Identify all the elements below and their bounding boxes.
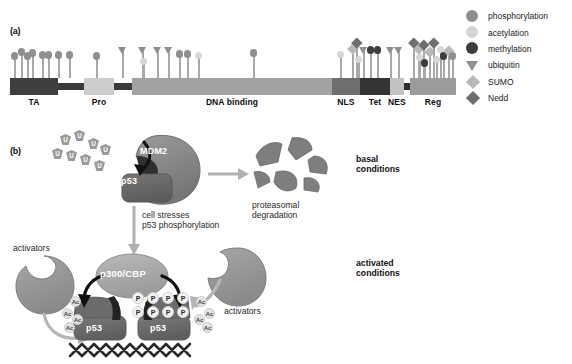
domain-label-tet: Tet — [360, 97, 390, 107]
proteasomal-fragments-graphic — [252, 136, 332, 198]
legend-row-methylation: methylation — [466, 41, 572, 57]
cell-stress-line1: cell stresses — [142, 210, 189, 221]
ubiquitin-icon — [386, 47, 394, 54]
panel-b-label: (b) — [10, 146, 21, 156]
domain-segment-pro — [84, 78, 114, 95]
sumo-icon — [466, 75, 479, 88]
methylation-icon — [374, 46, 382, 54]
legend-row-phosphorylation: phosphorylation — [466, 8, 572, 24]
domain-segment-nes — [390, 78, 404, 95]
legend-label: Nedd — [488, 93, 508, 103]
phosphorylation-icon — [66, 51, 74, 59]
phosphorylation-badge: P — [162, 306, 174, 318]
domain-segment-nls — [332, 78, 360, 95]
ubiquitin-icon — [118, 47, 126, 54]
domain-label-nes: NES — [388, 97, 406, 107]
ubiquitin-icon: U — [52, 148, 63, 159]
panel-b: (b) MDM2 p53 UUUUUUUU — [0, 118, 572, 364]
degradation-caption-line1: proteasomal — [252, 200, 338, 211]
ubiquitin-icon: U — [100, 144, 111, 155]
methylation-icon — [466, 42, 479, 55]
acetylation-badge: Ac — [196, 296, 207, 307]
activators-label-left: activators — [13, 243, 50, 254]
acetylation-badge: Ac — [64, 322, 75, 333]
degradation-caption-line2: degradation — [252, 210, 338, 221]
phosphorylation-badge: P — [177, 292, 189, 304]
phosphorylation-icon — [449, 52, 457, 60]
legend-row-acetylation: acetylation — [466, 24, 572, 40]
ubiquitin-icon — [466, 59, 479, 72]
ubiquitin-icon: U — [66, 150, 77, 161]
phosphorylation-icon — [250, 49, 258, 57]
acetylation-icon — [466, 26, 479, 39]
phosphorylation-icon — [55, 51, 63, 59]
acetylation-badge: Ac — [202, 322, 213, 333]
phosphorylation-icon — [176, 50, 184, 58]
acetylation-icon — [140, 58, 147, 65]
legend-label: phosphorylation — [488, 11, 548, 21]
acetylation-icon — [195, 52, 202, 59]
basal-conditions-line2: conditions — [356, 164, 400, 175]
methylation-icon — [421, 59, 429, 67]
phosphorylation-icon — [93, 52, 101, 60]
activated-conditions-line1: activated — [356, 258, 394, 269]
domain-segment-dna-binding — [132, 78, 332, 95]
legend-row-sumo: SUMO — [466, 74, 572, 90]
panel-a: (a) TAProDNA bindingNLSTetNESReg phospho… — [0, 0, 572, 118]
acetylation-icon — [355, 56, 362, 63]
mdm2-label: MDM2 — [140, 146, 167, 156]
legend-label: acetylation — [488, 28, 529, 38]
ubiquitin-icon — [164, 47, 172, 54]
legend-label: methylation — [488, 44, 531, 54]
ubiquitin-icon: U — [88, 138, 99, 149]
domain-segment-linker2 — [114, 83, 132, 90]
ubiquitin-icon: U — [94, 160, 105, 171]
domain-label-reg: Reg — [410, 97, 456, 107]
phosphorylation-icon — [45, 51, 53, 59]
nedd-icon — [466, 92, 479, 105]
domain-label-nls: NLS — [332, 97, 360, 107]
legend-row-ubiquitin: ubiquitin — [466, 57, 572, 73]
domain-segment-reg — [410, 78, 456, 95]
ubiquitin-icon: U — [80, 154, 91, 165]
phosphorylation-badge: P — [147, 306, 159, 318]
phosphorylation-icon — [466, 10, 479, 23]
acetylation-badge: Ac — [70, 296, 81, 307]
phosphorylation-icon — [184, 50, 192, 58]
ubiquitin-icon: U — [74, 130, 85, 141]
cell-stress-line2: p53 phosphorylation — [142, 220, 219, 231]
mdm2-p53-complex-graphic — [96, 130, 208, 210]
phosphorylation-badge: P — [177, 306, 189, 318]
basal-conditions-line1: basal — [356, 154, 378, 165]
domain-segment-tet — [360, 78, 390, 95]
ubiquitin-icon: U — [60, 134, 71, 145]
domain-segment-ta — [10, 78, 58, 95]
acetylation-icon — [337, 51, 344, 58]
activated-conditions-line2: conditions — [356, 268, 400, 279]
domain-label-dna-binding: DNA binding — [132, 97, 332, 107]
domain-label-ta: TA — [10, 97, 58, 107]
activators-label-right: activators — [224, 306, 261, 317]
ubiquitin-icon — [138, 47, 146, 54]
domain-label-pro: Pro — [84, 97, 114, 107]
legend-row-nedd: Nedd — [466, 90, 572, 106]
panel-a-label: (a) — [10, 26, 20, 36]
ubiquitin-icon — [153, 47, 161, 54]
p53-label-top: p53 — [121, 176, 137, 186]
cell-stress-arrow — [126, 206, 142, 256]
legend-label: ubiquitin — [488, 60, 520, 70]
legend: phosphorylationacetylationmethylationubi… — [466, 8, 572, 106]
phosphorylation-icon — [29, 49, 37, 57]
phosphorylation-badge: P — [132, 306, 144, 318]
p53-label-right: p53 — [150, 323, 166, 333]
p300-cbp-label: p300/CBP — [100, 268, 146, 279]
degradation-arrow — [208, 166, 250, 182]
legend-label: SUMO — [488, 77, 514, 87]
figure-p53-modifications: (a) TAProDNA bindingNLSTetNESReg phospho… — [0, 0, 572, 364]
ubiquitin-icon — [359, 47, 367, 54]
ubiquitin-icon — [394, 47, 402, 54]
phosphorylation-badge: P — [147, 292, 159, 304]
p53-label-left: p53 — [86, 323, 102, 333]
phosphorylation-badge: P — [132, 292, 144, 304]
acetylation-badge: Ac — [204, 308, 215, 319]
